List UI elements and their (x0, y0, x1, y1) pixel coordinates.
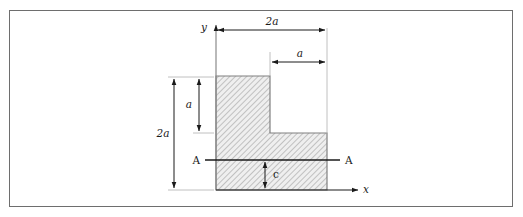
dimension-left-inner-height (193, 79, 214, 133)
dimension-label-centroid-height: c (273, 168, 279, 180)
section-label-right: A (344, 154, 353, 166)
l-section-shape (216, 76, 327, 190)
dimension-label-top-inner-width: a (297, 47, 303, 59)
dimension-label-left-height: 2a (156, 127, 170, 139)
dimension-label-left-inner-height: a (186, 98, 192, 110)
dimension-left-height (168, 77, 214, 190)
dimension-label-top-width: 2a (265, 15, 279, 27)
x-axis-label: x (363, 183, 369, 195)
figure-container: y x 2a a 2a a A A (0, 0, 523, 217)
section-label-left: A (191, 154, 200, 166)
engineering-diagram: y x 2a a 2a a A A (0, 0, 523, 217)
y-axis-label: y (200, 21, 208, 33)
